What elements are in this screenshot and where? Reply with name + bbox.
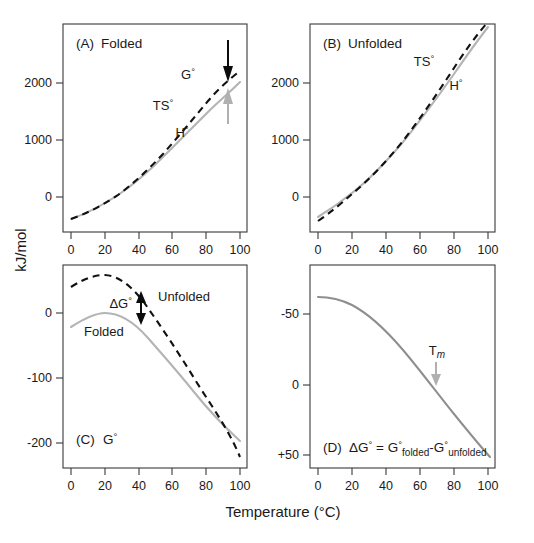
panel-d-xtick-80: 80 [447, 479, 461, 493]
panel-a: 2000 1000 0 0 20 40 60 80 100 (A) Folded [24, 24, 250, 257]
panel-b: 2000 1000 0 0 20 40 60 80 100 (B) Unfold… [271, 22, 498, 257]
panel-d-ytick-0: 0 [292, 378, 299, 392]
panel-c-ytick-m200: -200 [27, 436, 52, 450]
panel-b-ytick-1000: 1000 [271, 133, 299, 147]
panel-c-tag: (C) [76, 432, 95, 447]
panel-c-title: G° [103, 431, 118, 447]
panel-a-curve-g [71, 71, 240, 219]
y-axis-title-text: kJ/mol [12, 228, 29, 271]
panel-b-label-h: H° [449, 77, 462, 93]
panel-b-label-ts: TS° [414, 53, 435, 69]
panel-c-label-delta-g: ΔG° [109, 295, 132, 311]
panel-b-xtick-100: 100 [478, 243, 499, 257]
panel-d-caption: ΔG° = G°folded-G°unfolded [349, 439, 487, 458]
panel-d-xtick-60: 60 [413, 479, 427, 493]
tm-arrow-gray [431, 362, 441, 386]
y-axis-title: kJ/mol [12, 228, 29, 271]
g-arrow-black [223, 40, 233, 82]
panel-c-curve-unfolded [71, 275, 240, 457]
panel-c-xtick-100: 100 [230, 479, 251, 493]
panel-b-x-ticks [318, 232, 488, 239]
tm-label: Tm [429, 343, 445, 360]
panel-a-xtick-20: 20 [98, 243, 112, 257]
h-arrow-gray [223, 88, 233, 124]
panel-a-xtick-80: 80 [199, 243, 213, 257]
panel-c-x-ticks [71, 468, 240, 475]
panel-b-xtick-0: 0 [315, 243, 322, 257]
panel-d-curve-dg [318, 297, 490, 457]
panel-d-tag: (D) [323, 440, 342, 455]
panel-c-ytick-m100: -100 [27, 371, 52, 385]
panel-a-xtick-0: 0 [68, 243, 75, 257]
panel-a-xtick-60: 60 [165, 243, 179, 257]
panel-d-xtick-100: 100 [478, 479, 499, 493]
panel-a-frame [63, 24, 247, 232]
panel-a-title: Folded [101, 36, 142, 51]
panel-c-xtick-20: 20 [98, 479, 112, 493]
panel-b-ytick-0: 0 [292, 190, 299, 204]
panel-c-y-ticks [56, 313, 63, 443]
panel-c-xtick-40: 40 [132, 479, 146, 493]
figure-panel-group: kJ/mol Temperature (°C) 2000 1000 0 0 20… [0, 0, 534, 543]
panel-d-ytick-m50: -50 [281, 307, 299, 321]
panel-d-x-ticks [318, 468, 488, 475]
panel-c-label-unfolded: Unfolded [158, 289, 210, 304]
panel-a-ytick-2000: 2000 [24, 76, 52, 90]
panel-d-xtick-20: 20 [345, 479, 359, 493]
panel-a-ytick-1000: 1000 [24, 133, 52, 147]
panel-b-title: Unfolded [348, 36, 402, 51]
panel-a-label-g: G° [181, 66, 195, 82]
panel-b-xtick-40: 40 [379, 243, 393, 257]
panel-d-y-ticks [303, 314, 310, 455]
panel-a-ytick-0: 0 [45, 190, 52, 204]
panel-d: -50 0 +50 0 20 40 60 80 100 Tm (D) ΔG° = [278, 265, 499, 493]
panel-d-ytick-p50: +50 [278, 448, 299, 462]
panel-a-y-ticks [56, 83, 63, 197]
panel-b-tag: (B) [323, 36, 341, 51]
panel-b-curve-ts [318, 22, 488, 221]
panel-c-xtick-60: 60 [165, 479, 179, 493]
panel-b-ytick-2000: 2000 [271, 76, 299, 90]
panel-c-xtick-80: 80 [199, 479, 213, 493]
x-axis-title: Temperature (°C) [225, 503, 340, 520]
figure-svg: kJ/mol Temperature (°C) 2000 1000 0 0 20… [0, 0, 534, 543]
panel-a-xtick-100: 100 [230, 243, 251, 257]
panel-a-label-h: H° [175, 124, 188, 140]
panel-c-label-folded: Folded [84, 324, 124, 339]
panel-d-frame [310, 265, 495, 468]
panel-c-xtick-0: 0 [68, 479, 75, 493]
panel-a-x-ticks [71, 232, 240, 239]
panel-a-xtick-40: 40 [132, 243, 146, 257]
panel-a-label-ts: TS° [153, 97, 174, 113]
panel-d-xtick-0: 0 [315, 479, 322, 493]
x-axis-title-text: Temperature (°C) [225, 503, 340, 520]
panel-b-xtick-80: 80 [447, 243, 461, 257]
panel-b-xtick-60: 60 [413, 243, 427, 257]
panel-c-ytick-0: 0 [45, 306, 52, 320]
panel-b-xtick-20: 20 [345, 243, 359, 257]
panel-b-y-ticks [303, 83, 310, 197]
panel-c: 0 -100 -200 0 20 40 60 80 100 ΔG° Unfold… [27, 265, 251, 493]
panel-a-tag: (A) [76, 36, 94, 51]
panel-d-xtick-40: 40 [379, 479, 393, 493]
panel-d-caption-text: ΔG° = G°folded-G°unfolded [349, 439, 487, 458]
